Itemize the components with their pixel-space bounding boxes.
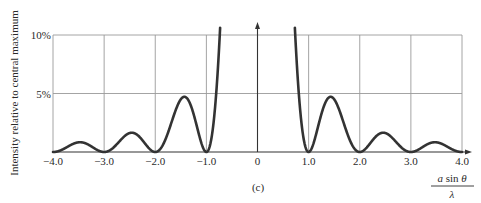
x-axis-label-numerator: a sin θ xyxy=(437,172,467,184)
x-tick-label: 0 xyxy=(255,155,261,167)
x-tick-label: 1.0 xyxy=(302,155,316,167)
axes xyxy=(53,22,472,155)
x-tick-label: 4.0 xyxy=(455,155,469,167)
y-tick-label: 10% xyxy=(31,29,51,41)
x-tick-label: 3.0 xyxy=(404,155,418,167)
y-axis-arrow-icon xyxy=(255,22,260,29)
x-axis-arrow-icon xyxy=(465,150,472,155)
x-tick-label: 2.0 xyxy=(353,155,367,167)
x-tick-label: −3.0 xyxy=(94,155,114,167)
y-axis-label: Intensity relative to central maximum xyxy=(8,10,20,176)
y-tick-label: 5% xyxy=(36,88,51,100)
x-tick-label: −1.0 xyxy=(196,155,216,167)
x-tick-label: −4.0 xyxy=(43,155,63,167)
y-tick-labels: 5%10% xyxy=(31,29,51,100)
x-tick-labels: −4.0−3.0−2.0−1.001.02.03.04.0 xyxy=(43,155,469,167)
diffraction-intensity-chart: −4.0−3.0−2.0−1.001.02.03.04.0 5%10% Inte… xyxy=(0,0,481,203)
figure-caption: (c) xyxy=(252,181,265,194)
x-axis-label: a sin θ λ xyxy=(431,172,474,200)
x-tick-label: −2.0 xyxy=(145,155,165,167)
x-axis-label-denominator: λ xyxy=(449,188,455,200)
